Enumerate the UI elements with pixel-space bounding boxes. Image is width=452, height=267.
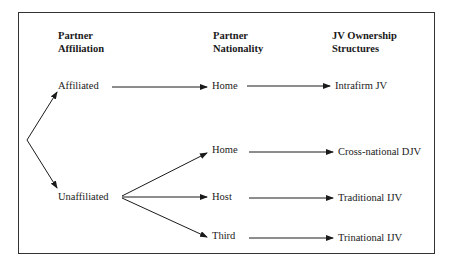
node-third: Third: [212, 229, 235, 242]
header-jv-ownership: JV Ownership Structures: [332, 29, 397, 55]
header-partner-affiliation: Partner Affiliation: [58, 29, 104, 55]
node-trinational-ijv: Trinational IJV: [338, 231, 402, 244]
header-line: Nationality: [213, 42, 263, 55]
header-line: Affiliation: [58, 42, 104, 55]
header-line: Partner: [213, 29, 263, 42]
node-host: Host: [212, 190, 232, 203]
node-cross-national-djv: Cross-national DJV: [338, 145, 421, 158]
header-line: JV Ownership: [332, 29, 397, 42]
node-home: Home: [212, 143, 238, 156]
node-intrafirm-jv: Intrafirm JV: [335, 79, 387, 92]
node-unaffiliated: Unaffiliated: [58, 190, 109, 203]
node-affiliated: Affiliated: [58, 79, 99, 92]
node-home-affiliated: Home: [212, 79, 238, 92]
header-line: Structures: [332, 42, 397, 55]
node-traditional-ijv: Traditional IJV: [338, 191, 402, 204]
header-partner-nationality: Partner Nationality: [213, 29, 263, 55]
header-line: Partner: [58, 29, 104, 42]
